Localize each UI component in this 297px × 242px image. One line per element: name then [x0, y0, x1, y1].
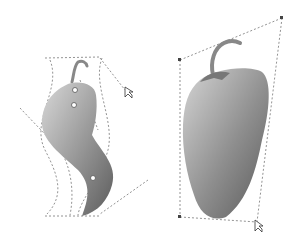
corner-handle[interactable]	[178, 215, 181, 218]
perspective-pepper-group[interactable]	[178, 16, 283, 232]
pepper-body-left	[42, 82, 113, 216]
figure-canvas	[0, 0, 297, 242]
pointer-cursor-icon	[125, 87, 133, 98]
node-handle[interactable]	[91, 176, 96, 181]
node-handle[interactable]	[73, 88, 78, 93]
envelope-pepper-group[interactable]	[20, 57, 148, 216]
corner-handle[interactable]	[178, 58, 181, 61]
pepper-body-right	[183, 68, 269, 218]
node-handle[interactable]	[72, 103, 77, 108]
pointer-cursor-icon	[255, 220, 263, 232]
corner-handle[interactable]	[280, 16, 283, 19]
pepper-stem	[72, 61, 87, 82]
